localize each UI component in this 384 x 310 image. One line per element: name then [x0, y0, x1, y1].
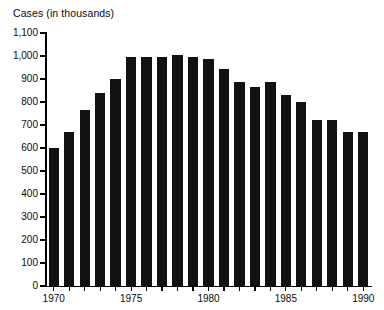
- y-axis-tick-label: 0: [32, 281, 38, 291]
- bar: [49, 148, 59, 286]
- bar: [126, 57, 136, 286]
- y-axis-tick-label: 300: [21, 212, 38, 222]
- y-axis-tick-label: 500: [21, 166, 38, 176]
- y-axis-tick: [40, 262, 45, 263]
- bar: [64, 132, 74, 286]
- bar: [265, 82, 275, 286]
- bar: [343, 132, 353, 286]
- x-axis-tick: [363, 286, 364, 291]
- x-axis-tick: [332, 286, 333, 291]
- x-axis-tick: [270, 286, 271, 291]
- bar: [80, 110, 90, 286]
- bar: [358, 132, 368, 286]
- bar: [110, 79, 120, 286]
- x-axis-tick: [301, 286, 302, 291]
- y-axis-tick: [40, 32, 45, 33]
- y-axis-tick: [40, 78, 45, 79]
- y-axis-tick-label: 900: [21, 74, 38, 84]
- x-axis-tick: [131, 286, 132, 291]
- bar: [281, 95, 291, 286]
- y-axis-tick-label: 700: [21, 120, 38, 130]
- bar: [327, 120, 337, 286]
- x-axis-tick: [146, 286, 147, 291]
- y-axis-tick-label: 100: [21, 258, 38, 268]
- y-axis-tick-label: 200: [21, 235, 38, 245]
- chart-title: Cases (in thousands): [13, 7, 114, 19]
- x-axis-tick: [254, 286, 255, 291]
- x-axis-tick: [347, 286, 348, 291]
- x-axis-tick: [115, 286, 116, 291]
- x-axis-tick: [69, 286, 70, 291]
- y-axis-tick-label: 800: [21, 97, 38, 107]
- x-axis-tick-label: 1980: [197, 293, 219, 304]
- bar: [312, 120, 322, 286]
- x-axis-tick: [223, 286, 224, 291]
- y-axis-tick-label: 600: [21, 143, 38, 153]
- y-axis-tick: [40, 216, 45, 217]
- y-axis-tick: [40, 239, 45, 240]
- bar: [95, 93, 105, 286]
- x-axis-tick-label: 1970: [43, 293, 65, 304]
- x-axis-tick: [161, 286, 162, 291]
- x-axis-tick: [100, 286, 101, 291]
- x-axis-tick-label: 1990: [352, 293, 374, 304]
- x-axis-tick: [177, 286, 178, 291]
- x-axis-tick: [208, 286, 209, 291]
- y-axis-tick: [40, 55, 45, 56]
- y-axis-tick: [40, 124, 45, 125]
- y-axis-tick: [40, 193, 45, 194]
- x-axis-tick-label: 1975: [120, 293, 142, 304]
- x-axis-tick: [53, 286, 54, 291]
- bar: [296, 102, 306, 286]
- x-axis-tick: [316, 286, 317, 291]
- bar: [141, 57, 151, 286]
- plot-area: [46, 33, 371, 286]
- x-axis-tick: [239, 286, 240, 291]
- bar: [250, 87, 260, 286]
- x-axis-tick-label: 1985: [275, 293, 297, 304]
- x-axis-tick: [285, 286, 286, 291]
- y-axis-tick-label: 1,100: [13, 28, 38, 38]
- x-axis-tick: [84, 286, 85, 291]
- bar: [203, 59, 213, 286]
- y-axis-tick-label: 400: [21, 189, 38, 199]
- x-axis-tick: [192, 286, 193, 291]
- bar: [188, 57, 198, 286]
- y-axis-tick: [40, 170, 45, 171]
- bar: [172, 55, 182, 286]
- bar: [234, 82, 244, 286]
- y-axis-tick: [40, 285, 45, 286]
- y-axis-tick: [40, 147, 45, 148]
- y-axis-tick: [40, 101, 45, 102]
- bar-chart: Cases (in thousands) 1,1001,000900800700…: [0, 0, 384, 310]
- bar: [157, 57, 167, 286]
- bar: [219, 69, 229, 286]
- y-axis-tick-label: 1,000: [13, 51, 38, 61]
